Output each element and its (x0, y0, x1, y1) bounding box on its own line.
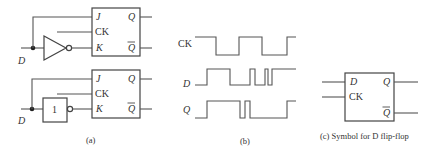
ck-signal-label: CK (178, 38, 193, 49)
pin-q: Q (128, 11, 136, 22)
d-input-label: D (17, 115, 26, 126)
pin-qbar: Q (383, 107, 391, 118)
pin-j: J (96, 73, 101, 84)
d-flip-flop-symbol: D CK Q Q (322, 73, 418, 121)
not-gate-bubble (67, 106, 72, 111)
pin-d: D (349, 76, 358, 87)
caption-a: (a) (86, 135, 96, 145)
d-flip-flop-diagram: J CK K Q Q D 1 J CK K Q Q D (a) CK D (0, 0, 436, 150)
q-waveform (195, 101, 296, 118)
caption-c: (c) Symbol for D flip-flop (320, 131, 409, 141)
ck-waveform (195, 37, 296, 55)
inverter-icon (44, 36, 66, 60)
pin-qbar: Q (128, 103, 136, 114)
pin-k: K (95, 42, 104, 53)
q-signal-label: Q (183, 104, 191, 115)
jk-to-d-nand-circuit: 1 J CK K Q Q D (17, 70, 152, 126)
d-input-label: D (17, 55, 26, 66)
pin-ck: CK (95, 88, 110, 99)
pin-ck: CK (349, 91, 364, 102)
pin-ck: CK (95, 26, 110, 37)
d-waveform (195, 69, 296, 85)
jk-to-d-inverter-circuit: J CK K Q Q D (17, 8, 152, 66)
pin-j: J (96, 11, 101, 22)
caption-b: (b) (240, 136, 250, 146)
pin-q: Q (383, 76, 391, 87)
gate-label: 1 (52, 104, 57, 115)
d-signal-label: D (182, 78, 191, 89)
timing-diagram: CK D Q (178, 37, 296, 118)
pin-k: K (95, 103, 104, 114)
pin-qbar: Q (128, 42, 136, 53)
inverter-bubble (66, 45, 71, 50)
pin-q: Q (128, 73, 136, 84)
